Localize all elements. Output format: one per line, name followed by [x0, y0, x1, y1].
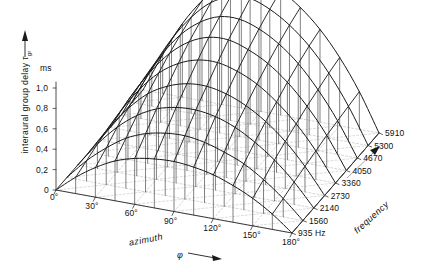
x-axis-tick-label: 0° [50, 192, 58, 202]
basegrid-diagonal [132, 97, 182, 102]
basegrid-diagonal [167, 162, 217, 167]
basegrid-diagonal [211, 112, 261, 117]
basegrid-diagonal [196, 181, 246, 186]
z-axis-title-text: interaural group delay [20, 63, 30, 154]
x-axis-tick-label: 180° [282, 237, 300, 247]
y-axis-tick-label: 1560 [309, 216, 328, 226]
x-axis-arrow-icon [212, 255, 222, 261]
y-axis-tick-label: 2730 [331, 191, 350, 201]
z-axis-symbol: τ [20, 56, 30, 60]
basegrid-diagonal [307, 158, 357, 163]
y-axis-tick-label: 3360 [342, 178, 361, 188]
y-axis-tick-label: 4670 [363, 153, 382, 163]
basegrid-diagonal [329, 133, 379, 138]
z-axis-tick-label: 0,4 [36, 144, 48, 154]
x-axis-tick-label: 90° [164, 216, 177, 226]
basegrid-diagonal [296, 171, 346, 176]
basegrid-diagonal [106, 179, 156, 184]
z-axis-unit: ms [40, 63, 52, 73]
x-axis-tick-label: 120° [203, 223, 221, 233]
basegrid-diagonal [135, 199, 185, 204]
basegrid-diagonal [156, 174, 206, 179]
basegrid-diagonal [185, 194, 235, 199]
basegrid-diagonal [161, 117, 211, 122]
x-axis-tick-label: 30° [85, 201, 98, 211]
z-axis-subscript: gr [26, 50, 32, 56]
basegrid-diagonal [318, 146, 368, 151]
basegrid-diagonal [95, 192, 145, 197]
x-axis-tick-label: 60° [125, 208, 138, 218]
y-axis-tick-label: 5300 [374, 141, 393, 151]
z-axis-tick-label: 0,8 [36, 103, 48, 113]
basegrid-diagonal [89, 147, 139, 152]
basegrid-diagonal [224, 201, 274, 206]
y-axis-tick [303, 221, 307, 223]
x-axis-symbol: φ [177, 250, 183, 260]
y-axis-tick [379, 133, 383, 135]
y-axis-tick [325, 196, 329, 198]
basegrid-diagonal [268, 151, 318, 156]
z-axis-tick-label: 0,6 [36, 124, 48, 134]
basegrid-diagonal [213, 213, 263, 218]
z-axis-tick-label: 0,2 [36, 165, 48, 175]
y-axis-tick [368, 146, 372, 148]
x-axis-arrow-shaft [188, 253, 215, 258]
basegrid-diagonal [246, 176, 296, 181]
basegrid-diagonal [146, 187, 196, 192]
basegrid-diagonal [121, 110, 171, 115]
y-axis-tick [357, 158, 361, 160]
y-axis-tick [314, 208, 318, 210]
y-axis-tick-label: 4050 [352, 166, 371, 176]
y-axis-tick [292, 233, 296, 235]
z-axis-tick-label: 0 [44, 185, 49, 195]
basegrid-diagonal [67, 172, 117, 177]
y-axis-tick-label: 2140 [320, 203, 339, 213]
y-axis-tick [346, 171, 350, 173]
basegrid-diagonal [174, 206, 224, 211]
chart-figure: { "chart_data": { "type": "surface", "ti… [0, 0, 432, 272]
basegrid-diagonal [117, 167, 167, 172]
basegrid-diagonal [200, 124, 250, 129]
z-axis-title: interaural group delay τgr [20, 36, 32, 168]
x-axis-tick-label: 150° [243, 230, 261, 240]
y-axis-tick-label: 935 Hz [298, 228, 326, 238]
y-axis-tick-label: 5910 [385, 128, 404, 138]
z-axis-tick-label: 1,0 [36, 83, 48, 93]
basegrid-diagonal [218, 156, 268, 161]
y-axis-tick [336, 183, 340, 185]
basegrid-diagonal [253, 221, 303, 226]
